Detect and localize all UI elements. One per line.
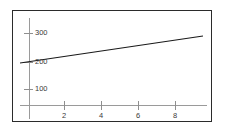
x-tick-label-2: 2 <box>57 111 71 120</box>
plot-frame: 300 200 100 2 4 6 8 <box>12 10 212 122</box>
x-tick-label-6: 6 <box>131 111 145 120</box>
x-tick-label-8: 8 <box>168 111 182 120</box>
y-tick-label-100: 100 <box>35 84 48 93</box>
y-tick-label-200: 200 <box>35 57 48 66</box>
x-tick-label-4: 4 <box>94 111 108 120</box>
chart-figure: 300 200 100 2 4 6 8 <box>0 0 225 132</box>
y-tick-label-300: 300 <box>35 28 48 37</box>
